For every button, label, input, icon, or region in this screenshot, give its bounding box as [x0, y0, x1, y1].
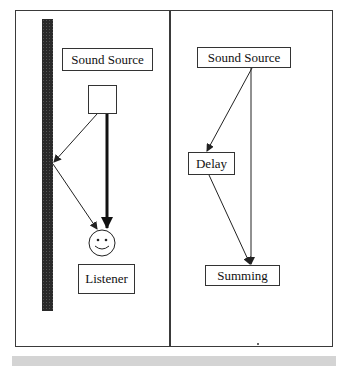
- footer-bar: [12, 356, 336, 366]
- smiley-face-icon: [89, 230, 115, 256]
- arrows-layer: [0, 0, 346, 366]
- stray-dot: [257, 343, 259, 345]
- delay-to-summing-arrow: [209, 175, 250, 264]
- source-to-delay-arrow: [207, 68, 252, 151]
- reflection-arrow-to-wall: [54, 114, 97, 162]
- reflection-arrow-to-listener: [53, 164, 97, 229]
